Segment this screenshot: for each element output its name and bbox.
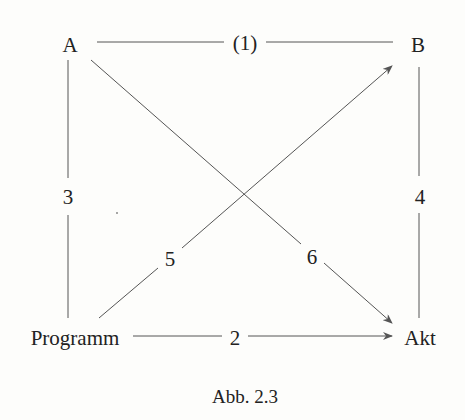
diagram-canvas: A B Programm Akt (1) 2 3 4 5 6 Abb. 2.3 (0, 0, 465, 420)
node-b: B (411, 33, 425, 57)
edge-6-top-line (91, 60, 301, 244)
edge-label-1: (1) (233, 31, 258, 55)
node-akt: Akt (404, 326, 436, 350)
speck (116, 212, 118, 214)
edge-6-bottom-arrow (324, 263, 392, 323)
node-a: A (62, 33, 78, 57)
edge-label-3: 3 (63, 185, 74, 209)
edge-label-4: 4 (415, 185, 426, 209)
edge-label-6: 6 (307, 245, 318, 269)
edge-5-top-arrow (182, 66, 392, 248)
edge-label-5: 5 (165, 247, 176, 271)
node-programm: Programm (31, 326, 120, 350)
figure-caption: Abb. 2.3 (212, 386, 278, 407)
edge-5-bottom-line (99, 268, 158, 318)
edge-label-2: 2 (230, 326, 241, 350)
